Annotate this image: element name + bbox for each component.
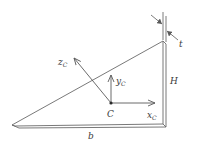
label-y-axis: yC <box>115 76 126 87</box>
centroid-point <box>109 101 112 104</box>
label-x-axis: xC <box>147 110 157 121</box>
label-centroid: C <box>107 109 114 119</box>
label-height: H <box>169 76 178 86</box>
plate-thickness-edge <box>12 41 166 128</box>
triangle-plate-diagram: zC yC xC C H b t <box>0 0 197 146</box>
thickness-dimension <box>151 12 178 42</box>
label-base: b <box>88 131 94 141</box>
plate-outline <box>12 41 166 128</box>
centroid-axes <box>74 58 155 103</box>
label-z-axis: zC <box>57 57 68 68</box>
plate-front-face <box>12 41 163 126</box>
z-axis-arrow <box>74 58 111 103</box>
label-thickness: t <box>179 39 183 49</box>
